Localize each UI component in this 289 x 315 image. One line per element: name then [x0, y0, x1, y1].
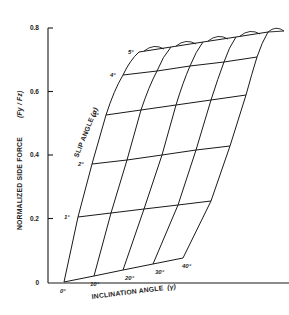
- y-tick-0.6: 0.6: [30, 88, 39, 95]
- row-slip-2: [92, 146, 230, 164]
- y-tick-0: 0: [35, 279, 39, 286]
- incl-label-0: 0°: [60, 288, 66, 294]
- chart-svg: 0.8 0.6 0.4 0.2 0 NORMALIZED SIDE FORCE …: [0, 0, 289, 315]
- slip-angle-title-text: SLIP ANGLE: [72, 116, 94, 158]
- y-tick-0.2: 0.2: [30, 215, 39, 222]
- slip-label-2: 2°: [77, 161, 84, 167]
- col-incl-40: [183, 32, 268, 258]
- col-incl-20: [123, 42, 203, 270]
- slip-label-4: 4°: [109, 72, 116, 78]
- y-axis-title: NORMALIZED SIDE FORCE (Fy / Fz): [16, 90, 24, 230]
- y-tick-labels: 0.8 0.6 0.4 0.2 0: [30, 24, 39, 286]
- x-axis-title: INCLINATION ANGLE (γ): [91, 283, 177, 301]
- y-axis-ratio-text: (Fy / Fz): [16, 90, 24, 118]
- carpet-plot-chart: 0.8 0.6 0.4 0.2 0 NORMALIZED SIDE FORCE …: [0, 0, 289, 315]
- incl-label-10: 10°: [90, 281, 100, 287]
- slip-label-5: 5°: [128, 49, 134, 55]
- incl-label-30: 30°: [155, 269, 165, 275]
- y-tick-0.8: 0.8: [30, 24, 39, 31]
- x-axis-title-text: INCLINATION ANGLE: [91, 284, 164, 300]
- y-tick-0.4: 0.4: [30, 151, 39, 158]
- incl-label-20: 20°: [124, 275, 135, 281]
- y-axis-title-text: NORMALIZED SIDE FORCE: [16, 137, 23, 230]
- slip-label-1: 1°: [64, 214, 70, 220]
- x-axis-symbol-text: (γ): [167, 283, 177, 292]
- incl-label-40: 40°: [181, 263, 192, 269]
- slip-angle-rows: [64, 32, 268, 282]
- row-slip-5: [139, 32, 268, 52]
- y-axis: [48, 28, 289, 283]
